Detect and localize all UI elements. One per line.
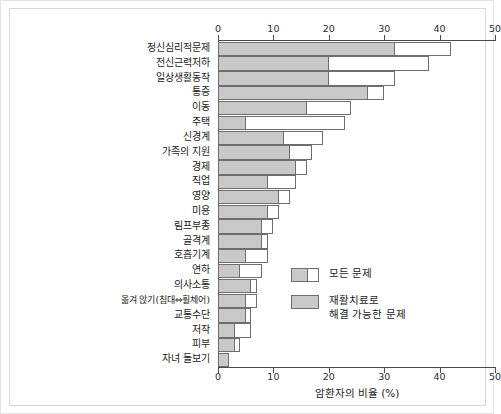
x-tick-label-top-50: 50 — [489, 23, 501, 34]
x-tick-mark-bottom-20 — [329, 368, 330, 373]
bar-segment-rehab-solvable — [218, 160, 296, 174]
bar-segment-rehab-solvable — [218, 101, 307, 115]
category-label: 연하 — [192, 263, 210, 278]
bar-segment-rehab-solvable — [218, 264, 240, 278]
bar-segment-rehab-solvable — [218, 131, 284, 145]
category-label: 미용 — [192, 204, 210, 219]
bar-row — [218, 174, 495, 189]
bar-segment-rehab-solvable — [218, 234, 262, 248]
legend-swatch-half-gray — [292, 269, 308, 281]
bar-row — [218, 41, 495, 56]
bar-row — [218, 115, 495, 130]
category-label: 골격계 — [183, 234, 210, 249]
x-tick-label-top-0: 0 — [215, 23, 221, 34]
x-tick-label-top-30: 30 — [378, 23, 390, 34]
bar-segment-rehab-solvable — [218, 116, 246, 130]
x-tick-mark-bottom-40 — [440, 368, 441, 373]
bar-segment-rehab-solvable — [218, 71, 329, 85]
bar-row — [218, 337, 495, 352]
figure-frame: 01020304050 01020304050 정신심리적문제전신근력저하일상생… — [9, 8, 486, 406]
x-tick-mark-top-30 — [384, 35, 385, 40]
category-label: 림프부종 — [174, 219, 210, 234]
bar-row — [218, 219, 495, 234]
bar-segment-rehab-solvable — [218, 219, 262, 233]
y-axis-category-labels: 정신심리적문제전신근력저하일상생활동작통증이동주택신경계가족의 지원경제직업영양… — [10, 41, 214, 367]
bar-row — [218, 145, 495, 160]
bar-row — [218, 100, 495, 115]
bar-segment-rehab-solvable — [218, 42, 395, 56]
bar-segment-rehab-solvable — [218, 323, 235, 337]
bar-segment-rehab-solvable — [218, 56, 329, 70]
category-label: 저작 — [192, 323, 210, 338]
category-label: 교통수단 — [174, 308, 210, 323]
x-tick-mark-bottom-0 — [218, 368, 219, 373]
x-tick-label-top-20: 20 — [323, 23, 335, 34]
legend-swatch-rehab-solvable — [291, 295, 319, 309]
bar-segment-rehab-solvable — [218, 205, 268, 219]
x-tick-mark-top-0 — [218, 35, 219, 40]
bar-row — [218, 189, 495, 204]
x-tick-mark-bottom-30 — [384, 368, 385, 373]
bar-row — [218, 160, 495, 175]
axis-line-bottom — [218, 367, 496, 368]
bar-row — [218, 56, 495, 71]
bar-row — [218, 323, 495, 338]
legend-item-all-problems: 모든 문제 — [291, 267, 441, 283]
category-label: 옮겨 앉기(침대⇔휠체어) — [121, 293, 210, 308]
bar-segment-rehab-solvable — [218, 190, 279, 204]
bar-row — [218, 234, 495, 249]
category-label: 직업 — [192, 174, 210, 189]
x-tick-label-top-40: 40 — [434, 23, 446, 34]
category-label: 영양 — [192, 189, 210, 204]
x-axis-title: 암환자의 비율 (%) — [218, 385, 496, 400]
bar-segment-rehab-solvable — [218, 86, 368, 100]
category-label: 신경계 — [183, 130, 210, 145]
category-label: 전신근력저하 — [156, 56, 210, 71]
legend-label-all-problems: 모든 문제 — [329, 267, 372, 281]
bar-row — [218, 352, 495, 367]
category-label: 자녀 돌보기 — [162, 352, 210, 367]
bar-row — [218, 85, 495, 100]
bar-row — [218, 130, 495, 145]
bar-segment-rehab-solvable — [218, 145, 290, 159]
bar-row — [218, 248, 495, 263]
category-label: 주택 — [192, 115, 210, 130]
bar-segment-rehab-solvable — [218, 338, 235, 352]
x-tick-mark-top-50 — [495, 35, 496, 40]
bar-segment-rehab-solvable — [218, 279, 251, 293]
bar-segment-rehab-solvable — [218, 175, 268, 189]
category-label: 호흡기계 — [174, 248, 210, 263]
category-label: 가족의 지원 — [162, 145, 210, 160]
category-label: 정신심리적문제 — [147, 41, 210, 56]
bar-segment-rehab-solvable — [218, 308, 246, 322]
category-label: 피부 — [192, 337, 210, 352]
category-label: 의사소통 — [174, 278, 210, 293]
x-tick-label-top-10: 10 — [267, 23, 279, 34]
x-tick-mark-bottom-50 — [495, 368, 496, 373]
x-tick-mark-top-40 — [440, 35, 441, 40]
category-label: 통증 — [192, 85, 210, 100]
category-label: 일상생활동작 — [156, 71, 210, 86]
bar-segment-rehab-solvable — [218, 294, 246, 308]
bar-row — [218, 204, 495, 219]
bar-segment-rehab-solvable — [218, 353, 229, 367]
legend-label-rehab-solvable: 재활치료로 해결 가능한 문제 — [329, 294, 406, 321]
bar-segment-rehab-solvable — [218, 249, 246, 263]
x-tick-mark-bottom-10 — [273, 368, 274, 373]
category-label: 이동 — [192, 100, 210, 115]
x-tick-mark-top-20 — [329, 35, 330, 40]
bar-row — [218, 71, 495, 86]
legend-item-rehab-solvable: 재활치료로 해결 가능한 문제 — [291, 294, 441, 310]
chart-legend: 모든 문제 재활치료로 해결 가능한 문제 — [291, 267, 441, 321]
category-label: 경제 — [192, 160, 210, 175]
x-tick-mark-top-10 — [273, 35, 274, 40]
legend-swatch-all-problems — [291, 268, 319, 282]
